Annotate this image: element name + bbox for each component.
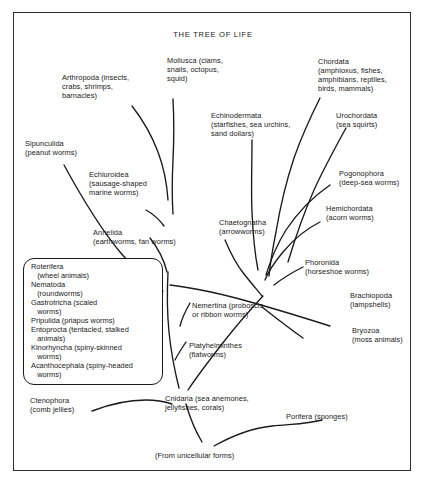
label-pogonophora: Pogonophora (deep-sea worms) — [339, 169, 399, 187]
label-unicellular-root: (From unicellular forms) — [155, 451, 234, 460]
label-ctenophora: Ctenophora (comb jellies) — [30, 396, 74, 414]
label-sipunculida: Sipunculida (peanut worms) — [25, 139, 77, 157]
label-chordata: Chordata (amphioxus, fishes, amphibians,… — [318, 57, 387, 93]
label-bryozoa: Bryozoa (moss animals) — [352, 326, 403, 344]
pseudocoelomate-group-box: Roterifera (wheel animals) Nematoda (rou… — [23, 258, 163, 385]
label-mollusca: Mollusca (clams, snails, octopus, squid) — [167, 56, 223, 83]
label-arthropoda: Arthropoda (insects, crabs, shrimps, bar… — [62, 73, 129, 100]
label-phoronida: Phoronida (horseshoe worms) — [305, 258, 369, 276]
label-echiuroidea: Echiuroidea (sausage-shaped marine worms… — [89, 170, 147, 197]
label-chaetognatha: Chaetognatha (arrowworms) — [219, 218, 266, 236]
label-hemichordata: Hemichordata (acorn worms) — [326, 204, 374, 222]
label-echinodermata: Echinodermata (starfishes, sea urchins, … — [211, 111, 290, 138]
label-annelida: Annelida (earthworms, fan worms) — [93, 228, 176, 246]
label-brachiopoda: Brachiopoda (lampshells) — [350, 291, 392, 309]
tree-of-life-figure: THE TREE OF LIFE — [0, 0, 426, 486]
list-item: worms) — [31, 371, 61, 380]
label-platyhelminthes: Platyhelminthes (flatworms) — [189, 341, 242, 359]
label-porifera: Porifera (sponges) — [286, 412, 348, 421]
figure-title: THE TREE OF LIFE — [0, 30, 426, 39]
label-cnidaria: Cnidaria (sea anemones, jellyfishes, cor… — [165, 394, 249, 412]
label-urochordata: Urochordata (sea squirts) — [336, 111, 377, 129]
label-nemertina: Nemertina (proboscis or ribbon worms) — [192, 301, 263, 319]
